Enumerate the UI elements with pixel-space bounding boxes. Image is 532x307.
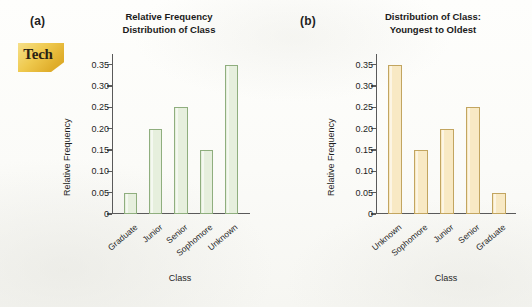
- y-axis-title-a: Relative Frequency: [62, 118, 72, 196]
- bar-highlight: [390, 66, 392, 213]
- x-tick-label: Junior: [140, 222, 164, 245]
- y-axis-line-a: [112, 54, 113, 214]
- y-tick-label-a: 0.30: [91, 81, 109, 91]
- y-tick-label-b: 0.10: [355, 166, 373, 176]
- y-tick-label-a: 0: [104, 209, 109, 219]
- bar[interactable]: [200, 150, 213, 214]
- chart-title-a-line1: Relative Frequency: [84, 11, 254, 24]
- panel-letter-a: (a): [30, 14, 45, 28]
- bar[interactable]: [388, 65, 402, 214]
- bar[interactable]: [174, 107, 187, 214]
- chart-panel-a: (a) Tech Relative Frequency Distribution…: [0, 0, 266, 307]
- bar[interactable]: [492, 193, 506, 214]
- bar-highlight: [202, 151, 204, 213]
- y-tick-label-a: 0.05: [91, 188, 109, 198]
- x-tick-label: Graduate: [105, 222, 139, 252]
- y-tick-label-a: 0.15: [91, 145, 109, 155]
- bar-highlight: [494, 194, 496, 213]
- y-tick-label-b: 0.25: [355, 102, 373, 112]
- bar-highlight: [416, 151, 418, 213]
- tech-badge-label: Tech: [18, 46, 58, 63]
- chart-panel-b: (b) Distribution of Class: Youngest to O…: [266, 0, 532, 307]
- bar[interactable]: [440, 129, 454, 214]
- y-tick-label-a: 0.25: [91, 102, 109, 112]
- bar-highlight: [468, 108, 470, 213]
- bar-highlight: [126, 194, 128, 213]
- x-axis-title-a: Class: [120, 273, 240, 283]
- y-tick-label-b: 0.05: [355, 188, 373, 198]
- plot-area-a: 00.050.100.150.200.250.300.35GraduateJun…: [112, 54, 244, 214]
- y-tick-label-a: 0.10: [91, 166, 109, 176]
- chart-title-b-line2: Youngest to Oldest: [348, 24, 518, 37]
- y-tick-label-a: 0.35: [91, 60, 109, 70]
- x-axis-title-b: Class: [386, 273, 506, 283]
- y-tick-label-a: 0.20: [91, 124, 109, 134]
- panel-letter-b: (b): [300, 14, 316, 28]
- y-tick-label-b: 0.20: [355, 124, 373, 134]
- bar[interactable]: [225, 65, 238, 214]
- chart-title-b: Distribution of Class: Youngest to Oldes…: [348, 11, 518, 36]
- chart-title-a: Relative Frequency Distribution of Class: [84, 11, 254, 36]
- bar-highlight: [227, 66, 229, 213]
- bar[interactable]: [124, 193, 137, 214]
- plot-area-b: 00.050.100.150.200.250.300.35UnknownSoph…: [376, 54, 512, 214]
- bar[interactable]: [414, 150, 428, 214]
- chart-title-a-line2: Distribution of Class: [84, 24, 254, 37]
- x-tick-label: Junior: [431, 222, 455, 245]
- bar[interactable]: [466, 107, 480, 214]
- y-axis-title-b: Relative Frequency: [326, 118, 336, 196]
- y-tick-label-b: 0.15: [355, 145, 373, 155]
- y-tick-label-b: 0.35: [355, 60, 373, 70]
- tech-badge-icon: Tech: [18, 43, 64, 72]
- y-tick-label-b: 0: [368, 209, 373, 219]
- chart-title-b-line1: Distribution of Class:: [348, 11, 518, 24]
- y-axis-line-b: [376, 54, 377, 214]
- y-tick-label-b: 0.30: [355, 81, 373, 91]
- bar[interactable]: [149, 129, 162, 214]
- bar-highlight: [176, 108, 178, 213]
- bar-highlight: [151, 130, 153, 213]
- bar-highlight: [442, 130, 444, 213]
